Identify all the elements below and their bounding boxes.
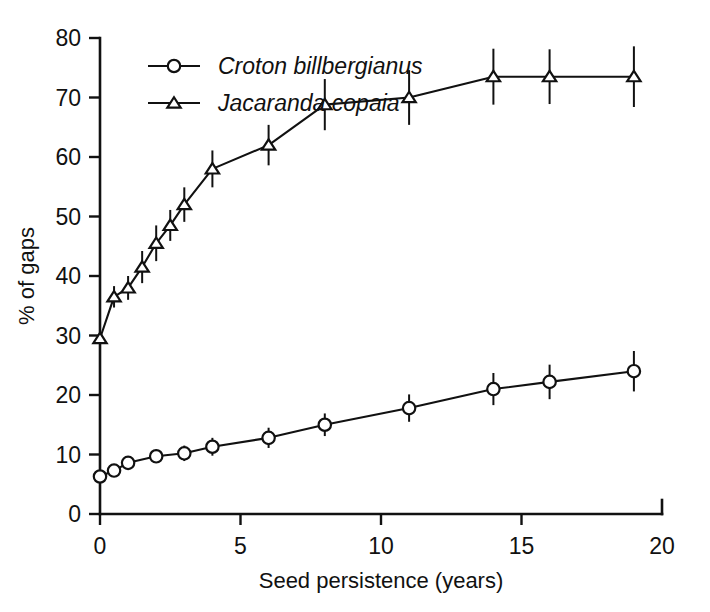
y-tick-label: 80	[55, 25, 81, 51]
figure-container: 01020304050607080 05101520 Seed persiste…	[0, 0, 710, 612]
marker-open-circle	[487, 383, 499, 395]
marker-open-circle	[150, 450, 162, 462]
y-tick-label: 0	[68, 501, 81, 527]
chart-legend: Croton billbergianusJacaranda copaia	[148, 53, 423, 116]
y-tick-label: 30	[55, 323, 81, 349]
marker-open-circle	[543, 376, 555, 388]
legend-entry-jacaranda-copaia: Jacaranda copaia	[148, 90, 400, 116]
series-croton-billbergianus	[94, 351, 640, 483]
marker-open-circle	[206, 441, 218, 453]
y-tick-label: 70	[55, 85, 81, 111]
x-tick-label: 15	[509, 533, 535, 559]
x-axis-title: Seed persistence (years)	[259, 568, 504, 593]
y-axis-tick-labels: 01020304050607080	[55, 25, 81, 527]
marker-open-triangle	[206, 163, 219, 173]
x-tick-label: 0	[94, 533, 107, 559]
legend-label: Jacaranda copaia	[217, 90, 400, 116]
x-tick-label: 5	[234, 533, 247, 559]
marker-open-circle	[403, 402, 415, 414]
marker-open-circle	[178, 447, 190, 459]
y-tick-label: 50	[55, 204, 81, 230]
x-tick-label: 10	[368, 533, 394, 559]
y-axis-title: % of gaps	[14, 227, 39, 325]
marker-open-triangle	[121, 282, 134, 292]
y-axis-ticks	[89, 38, 100, 514]
marker-open-circle	[628, 365, 640, 377]
marker-open-circle	[319, 419, 331, 431]
marker-open-circle	[108, 464, 120, 476]
legend-entry-croton-billbergianus: Croton billbergianus	[148, 53, 423, 79]
y-tick-label: 20	[55, 382, 81, 408]
legend-label: Croton billbergianus	[218, 53, 423, 79]
marker-open-circle	[168, 60, 180, 72]
marker-open-circle	[262, 432, 274, 444]
marker-open-circle	[122, 457, 134, 469]
x-axis-tick-labels: 05101520	[94, 533, 675, 559]
marker-open-triangle	[135, 261, 148, 271]
x-tick-label: 20	[649, 533, 675, 559]
marker-open-triangle	[164, 220, 177, 230]
marker-open-triangle	[93, 333, 106, 343]
y-tick-label: 40	[55, 263, 81, 289]
y-tick-label: 60	[55, 144, 81, 170]
chart-svg: 01020304050607080 05101520 Seed persiste…	[0, 0, 710, 612]
marker-open-triangle	[107, 291, 120, 301]
marker-open-triangle	[178, 199, 191, 209]
y-tick-label: 10	[55, 442, 81, 468]
marker-open-circle	[94, 470, 106, 482]
x-axis-ticks	[100, 514, 522, 525]
